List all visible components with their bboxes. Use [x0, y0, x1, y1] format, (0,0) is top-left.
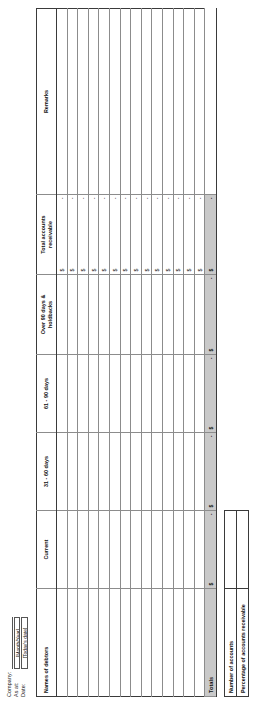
- cell-over-90-11[interactable]: [173, 275, 184, 355]
- cell-over-90-13[interactable]: [194, 275, 205, 355]
- cell-31-60-3[interactable]: [88, 433, 99, 511]
- cell-remarks-5[interactable]: [109, 9, 120, 195]
- cell-name-11[interactable]: [173, 589, 184, 697]
- cell-current-6[interactable]: [120, 511, 131, 589]
- summary-value-1[interactable]: [237, 511, 249, 589]
- cell-61-90-5[interactable]: [109, 355, 120, 433]
- cell-61-90-3[interactable]: [88, 355, 99, 433]
- cell-31-60-4[interactable]: [99, 433, 110, 511]
- cell-31-60-11[interactable]: [173, 433, 184, 511]
- cell-remarks-12[interactable]: [184, 9, 195, 195]
- cell-31-60-6[interactable]: [120, 433, 131, 511]
- cell-name-5[interactable]: [109, 589, 120, 697]
- cell-current-10[interactable]: [162, 511, 173, 589]
- cell-name-7[interactable]: [131, 589, 142, 697]
- cell-61-90-6[interactable]: [120, 355, 131, 433]
- cell-current-1[interactable]: [67, 511, 78, 589]
- col-header-current-line1: Current: [43, 540, 49, 560]
- cell-over-90-5[interactable]: [109, 275, 120, 355]
- cell-current-11[interactable]: [173, 511, 184, 589]
- date-input[interactable]: [Today's date]: [21, 617, 28, 669]
- cell-over-90-3[interactable]: [88, 275, 99, 355]
- cell-61-90-4[interactable]: [99, 355, 110, 433]
- cell-61-90-1[interactable]: [67, 355, 78, 433]
- cell-31-60-5[interactable]: [109, 433, 120, 511]
- cell-61-90-8[interactable]: [141, 355, 152, 433]
- cell-over-90-9[interactable]: [152, 275, 163, 355]
- cell-total-ar-12: $-: [184, 195, 195, 275]
- company-input[interactable]: [6, 617, 13, 669]
- cell-31-60-1[interactable]: [67, 433, 78, 511]
- as-at-input[interactable]: [Month/Year]: [14, 617, 21, 669]
- cell-remarks-11[interactable]: [173, 9, 184, 195]
- cell-remarks-8[interactable]: [141, 9, 152, 195]
- totals-over-90-currency: $: [208, 349, 214, 352]
- cell-31-60-9[interactable]: [152, 433, 163, 511]
- cell-name-12[interactable]: [184, 589, 195, 697]
- cell-31-60-10[interactable]: [162, 433, 173, 511]
- cell-61-90-11[interactable]: [173, 355, 184, 433]
- cell-over-90-2[interactable]: [78, 275, 89, 355]
- table-row: $-: [57, 9, 68, 697]
- col-header-61-90-line1: 61 - 90 days: [43, 378, 49, 409]
- cell-current-0[interactable]: [57, 511, 68, 589]
- table-row: $-: [99, 9, 110, 697]
- cell-name-1[interactable]: [67, 589, 78, 697]
- cell-over-90-8[interactable]: [141, 275, 152, 355]
- cell-total-currency-12: $: [186, 269, 192, 272]
- cell-remarks-7[interactable]: [131, 9, 142, 195]
- cell-name-4[interactable]: [99, 589, 110, 697]
- cell-31-60-2[interactable]: [78, 433, 89, 511]
- cell-name-3[interactable]: [88, 589, 99, 697]
- cell-name-8[interactable]: [141, 589, 152, 697]
- cell-over-90-10[interactable]: [162, 275, 173, 355]
- cell-over-90-12[interactable]: [184, 275, 195, 355]
- cell-remarks-13[interactable]: [194, 9, 205, 195]
- cell-name-6[interactable]: [120, 589, 131, 697]
- cell-61-90-10[interactable]: [162, 355, 173, 433]
- cell-61-90-0[interactable]: [57, 355, 68, 433]
- cell-remarks-2[interactable]: [78, 9, 89, 195]
- cell-over-90-4[interactable]: [99, 275, 110, 355]
- cell-current-9[interactable]: [152, 511, 163, 589]
- cell-remarks-9[interactable]: [152, 9, 163, 195]
- cell-remarks-4[interactable]: [99, 9, 110, 195]
- cell-total-ar-0: $-: [57, 195, 68, 275]
- cell-61-90-9[interactable]: [152, 355, 163, 433]
- cell-61-90-2[interactable]: [78, 355, 89, 433]
- cell-61-90-13[interactable]: [194, 355, 205, 433]
- cell-over-90-0[interactable]: [57, 275, 68, 355]
- cell-current-13[interactable]: [194, 511, 205, 589]
- summary-value-0[interactable]: [225, 511, 237, 589]
- cell-31-60-0[interactable]: [57, 433, 68, 511]
- cell-31-60-13[interactable]: [194, 433, 205, 511]
- cell-31-60-12[interactable]: [184, 433, 195, 511]
- cell-name-13[interactable]: [194, 589, 205, 697]
- cell-remarks-6[interactable]: [120, 9, 131, 195]
- cell-current-5[interactable]: [109, 511, 120, 589]
- cell-total-currency-2: $: [80, 269, 86, 272]
- cell-name-0[interactable]: [57, 589, 68, 697]
- cell-name-9[interactable]: [152, 589, 163, 697]
- cell-over-90-1[interactable]: [67, 275, 78, 355]
- cell-31-60-8[interactable]: [141, 433, 152, 511]
- cell-remarks-3[interactable]: [88, 9, 99, 195]
- cell-current-12[interactable]: [184, 511, 195, 589]
- cell-61-90-12[interactable]: [184, 355, 195, 433]
- cell-current-4[interactable]: [99, 511, 110, 589]
- cell-current-2[interactable]: [78, 511, 89, 589]
- cell-over-90-7[interactable]: [131, 275, 142, 355]
- cell-current-7[interactable]: [131, 511, 142, 589]
- cell-31-60-7[interactable]: [131, 433, 142, 511]
- cell-total-currency-0: $: [59, 269, 65, 272]
- cell-61-90-7[interactable]: [131, 355, 142, 433]
- cell-current-3[interactable]: [88, 511, 99, 589]
- cell-name-2[interactable]: [78, 589, 89, 697]
- cell-name-10[interactable]: [162, 589, 173, 697]
- cell-over-90-6[interactable]: [120, 275, 131, 355]
- cell-remarks-0[interactable]: [57, 9, 68, 195]
- cell-remarks-10[interactable]: [162, 9, 173, 195]
- cell-current-8[interactable]: [141, 511, 152, 589]
- table-row: $-: [152, 9, 163, 697]
- cell-remarks-1[interactable]: [67, 9, 78, 195]
